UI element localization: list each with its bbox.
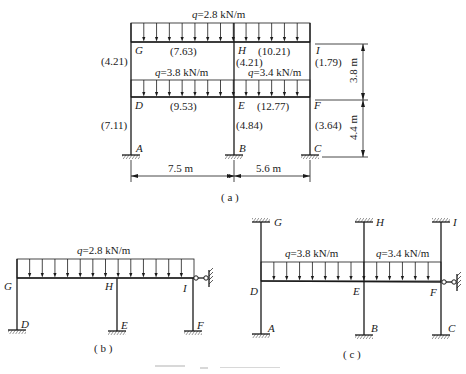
link-support-i <box>194 268 213 287</box>
dim-storey-lower: 4.4 m <box>347 115 359 141</box>
fixed-support-g <box>252 218 270 222</box>
node-label-f: F <box>313 99 321 111</box>
caption-b: ( b ) <box>94 342 113 355</box>
node-label-f-b: F <box>196 319 204 331</box>
dim-storey-upper: 3.8 m <box>347 58 359 84</box>
node-label-c-c: C <box>448 322 456 334</box>
stiffness-he: (4.21) <box>236 56 263 69</box>
distributed-load-b <box>17 259 194 278</box>
stiffness-gh: (7.63) <box>170 45 197 58</box>
fixed-support-e <box>108 331 126 335</box>
node-label-i: I <box>315 44 321 56</box>
node-label-e: E <box>237 99 245 111</box>
node-label-g: G <box>135 44 143 56</box>
node-label-g-c: G <box>274 216 282 228</box>
fixed-support-c-c <box>432 335 450 339</box>
stiffness-eb: (4.84) <box>236 119 263 132</box>
stiffness-gd: (4.21) <box>101 55 128 68</box>
node-label-a: A <box>135 142 143 154</box>
load-label-top: q=2.8 kN/m <box>192 8 246 20</box>
node-label-d-c: D <box>249 285 258 297</box>
node-label-i-b: I <box>182 282 188 294</box>
stiffness-da: (7.11) <box>101 119 128 132</box>
dim-span-2: 5.6 m <box>256 162 282 174</box>
fixed-support-d <box>8 330 26 334</box>
faint-caption-remnant <box>155 365 280 369</box>
node-label-a-c: A <box>267 322 275 334</box>
stiffness-ef: (12.77) <box>257 100 289 113</box>
node-label-f-c: F <box>429 286 437 298</box>
fixed-support-h <box>355 218 373 222</box>
node-label-b: B <box>239 142 246 154</box>
node-label-d: D <box>134 99 143 111</box>
node-label-c: C <box>314 142 322 154</box>
node-label-e-c: E <box>352 285 360 297</box>
fixed-support-i <box>432 218 450 222</box>
figure-b: q=2.8 kN/m G H I D E F ( b ) <box>4 244 213 355</box>
node-label-g-b: G <box>4 280 12 292</box>
distributed-load-c <box>261 262 441 281</box>
node-label-b-c: B <box>371 322 378 334</box>
node-label-d-b: D <box>20 318 29 330</box>
stiffness-de: (9.53) <box>170 100 197 113</box>
fixed-support-c <box>301 155 319 159</box>
distributed-load-gi <box>131 23 310 42</box>
node-label-h-c: H <box>375 216 385 228</box>
caption-c: ( c ) <box>343 348 361 361</box>
fixed-support-a <box>122 155 140 159</box>
fixed-support-b-c <box>355 335 373 339</box>
node-label-h-b: H <box>104 280 114 292</box>
stiffness-if: (1.79) <box>315 56 342 69</box>
node-label-e-b: E <box>120 319 128 331</box>
caption-a: ( a ) <box>221 191 239 204</box>
dimension-horizontal: 7.5 m 5.6 m <box>131 160 310 182</box>
fixed-support-b <box>225 155 243 159</box>
distributed-load-def <box>131 80 310 97</box>
node-label-i-c: I <box>452 216 458 228</box>
link-support-f <box>442 272 461 291</box>
fixed-support-a-c <box>252 334 270 338</box>
load-label-de-c: q=3.8 kN/m <box>285 247 339 259</box>
load-label-b: q=2.8 kN/m <box>77 244 131 256</box>
load-label-de: q=3.8 kN/m <box>155 66 209 78</box>
figure-c: q=3.8 kN/m q=3.4 kN/m G H I D E F A B C … <box>249 216 461 361</box>
stiffness-fc: (3.64) <box>315 119 342 132</box>
load-label-ef-c: q=3.4 kN/m <box>376 247 430 259</box>
dim-span-1: 7.5 m <box>168 162 194 174</box>
figure-a: q=2.8 kN/m q=3.8 kN/m q=3.4 kN/m G H I D… <box>101 8 368 204</box>
fixed-support-f <box>184 331 202 335</box>
node-label-h: H <box>237 44 247 56</box>
stiffness-hi: (10.21) <box>258 45 290 58</box>
frame-diagram: q=2.8 kN/m q=3.8 kN/m q=3.4 kN/m G H I D… <box>0 0 466 374</box>
